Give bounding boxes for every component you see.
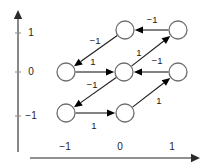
edge-arrowhead-icon bbox=[74, 59, 83, 67]
node-top-right bbox=[169, 21, 187, 39]
y-axis-tick-label: −1 bbox=[25, 110, 37, 121]
x-axis-arrowhead-icon bbox=[191, 154, 200, 162]
edge-weight-label: 1 bbox=[90, 56, 95, 67]
edge-weight-label: 1 bbox=[156, 95, 161, 106]
edge-arrowhead-icon bbox=[74, 100, 83, 108]
edge-weight-label: −1 bbox=[87, 79, 98, 90]
diagram-canvas: 10−1−101 −1−111−1−111 bbox=[0, 0, 210, 168]
edge-arrowhead-icon bbox=[162, 78, 171, 86]
node-middle-left bbox=[57, 63, 75, 81]
node-middle-middle bbox=[115, 63, 133, 81]
y-axis-tick-label: 0 bbox=[28, 66, 34, 77]
node-middle-right bbox=[169, 63, 187, 81]
y-axis-tick-label: 1 bbox=[28, 27, 34, 38]
edge-arrowhead-icon bbox=[107, 109, 115, 116]
x-axis-tick-label: −1 bbox=[59, 141, 71, 152]
edge-arrowhead-icon bbox=[135, 26, 143, 33]
node-bottom-left bbox=[57, 104, 75, 122]
edge-weight-label: −1 bbox=[152, 55, 163, 66]
x-axis-tick-label: 1 bbox=[169, 141, 175, 152]
edge-weight-label: −1 bbox=[147, 14, 158, 25]
node-top-middle bbox=[116, 21, 134, 39]
lattice-graph-figure: 10−1−101 −1−111−1−111 bbox=[0, 0, 210, 168]
edge-arrowhead-icon bbox=[134, 68, 142, 75]
x-axis-tick-label: 0 bbox=[117, 141, 123, 152]
y-axis-arrowhead-icon bbox=[14, 10, 22, 19]
edge-arrowhead-icon bbox=[106, 68, 114, 75]
edge-weight-label: 1 bbox=[136, 47, 141, 58]
edge-weight-label: 1 bbox=[91, 120, 96, 131]
node-bottom-middle bbox=[116, 104, 134, 122]
edge-weight-label: −1 bbox=[90, 35, 101, 46]
edge-arrowhead-icon bbox=[162, 36, 171, 44]
